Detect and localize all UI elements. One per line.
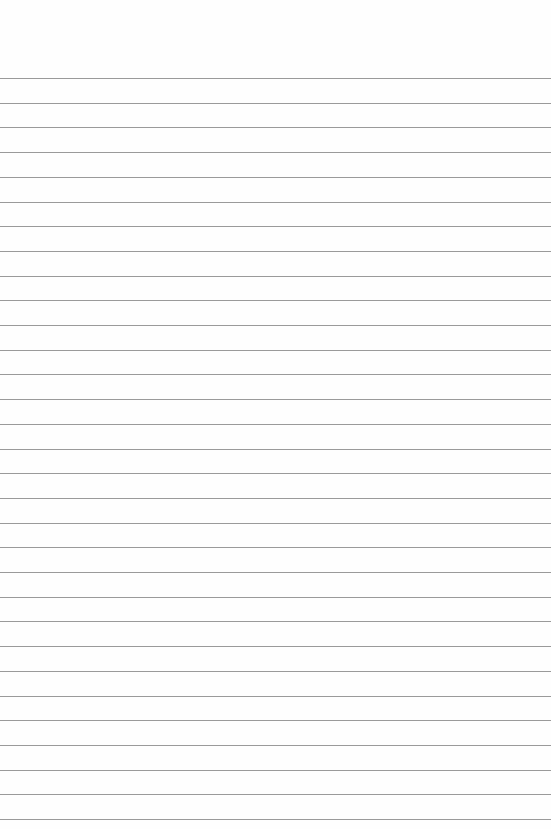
- ruled-line: [0, 226, 551, 227]
- ruled-line: [0, 276, 551, 277]
- ruled-line: [0, 646, 551, 647]
- ruled-line: [0, 572, 551, 573]
- ruled-line: [0, 202, 551, 203]
- ruled-line: [0, 399, 551, 400]
- ruled-line: [0, 794, 551, 795]
- ruled-line: [0, 498, 551, 499]
- ruled-line: [0, 177, 551, 178]
- ruled-line: [0, 523, 551, 524]
- ruled-line: [0, 449, 551, 450]
- ruled-line: [0, 696, 551, 697]
- ruled-line: [0, 78, 551, 79]
- ruled-line: [0, 103, 551, 104]
- ruled-line: [0, 770, 551, 771]
- ruled-line: [0, 325, 551, 326]
- ruled-line: [0, 152, 551, 153]
- ruled-line: [0, 300, 551, 301]
- ruled-line: [0, 350, 551, 351]
- ruled-line: [0, 127, 551, 128]
- ruled-line: [0, 720, 551, 721]
- ruled-line: [0, 597, 551, 598]
- ruled-line: [0, 621, 551, 622]
- ruled-line: [0, 473, 551, 474]
- ruled-line: [0, 424, 551, 425]
- ruled-line: [0, 547, 551, 548]
- ruled-line: [0, 819, 551, 820]
- ruled-line: [0, 251, 551, 252]
- ruled-line: [0, 745, 551, 746]
- ruled-line: [0, 671, 551, 672]
- ruled-line: [0, 374, 551, 375]
- lined-paper-sheet: [0, 0, 551, 829]
